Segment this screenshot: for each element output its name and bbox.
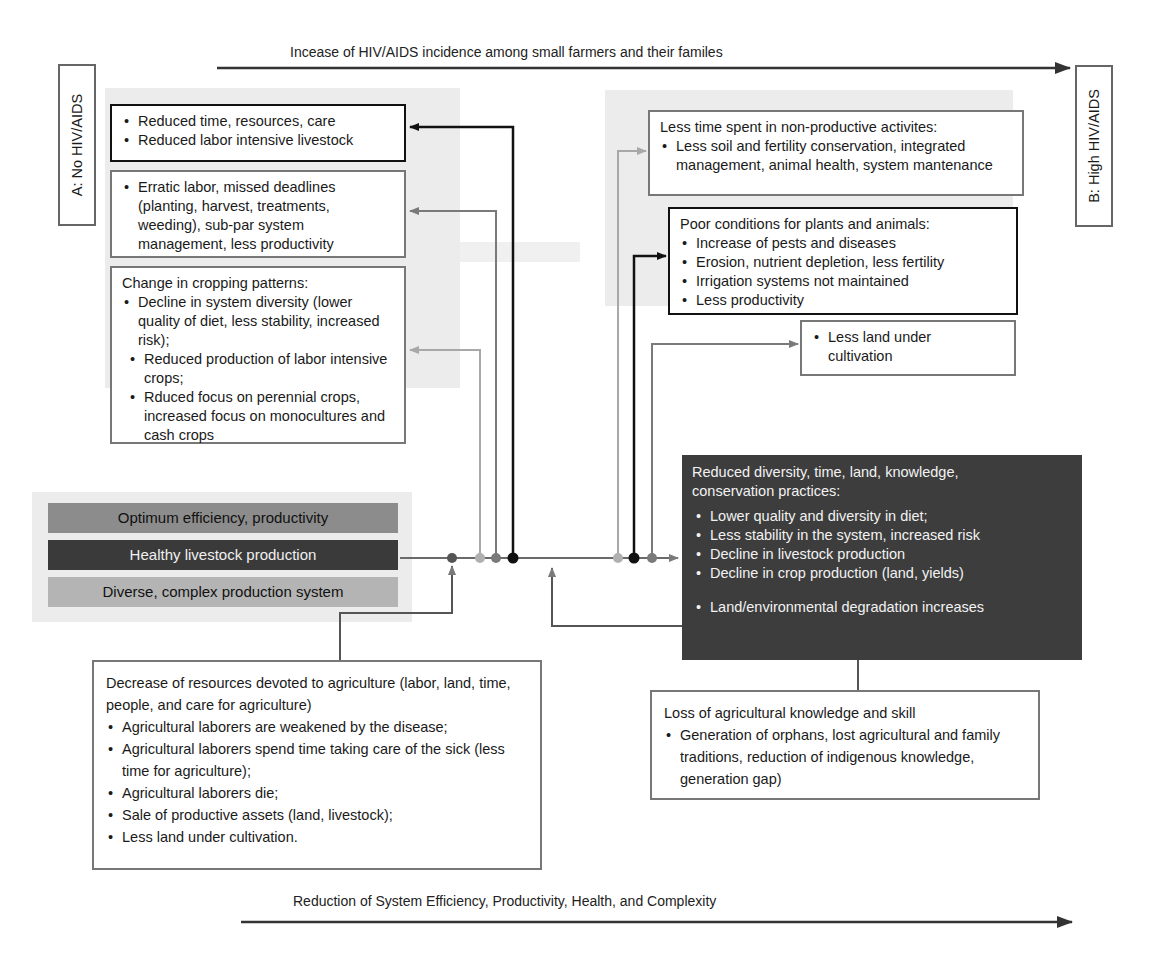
connector-lines xyxy=(0,0,1167,962)
